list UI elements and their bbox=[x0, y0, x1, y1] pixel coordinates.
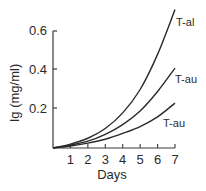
y-tick-label: 0.2 bbox=[29, 101, 47, 116]
x-tick-label: 6 bbox=[154, 152, 161, 167]
x-tick-label: 3 bbox=[102, 152, 109, 167]
series-label-t-al: T-al bbox=[176, 16, 194, 28]
y-tick-label: 0.4 bbox=[29, 62, 47, 77]
growth-chart: 0.20.40.6 Ig (mg/ml) 1234567 Days T-al T… bbox=[0, 0, 206, 191]
y-axis bbox=[53, 31, 57, 148]
x-tick-label: 5 bbox=[137, 152, 144, 167]
x-axis-title: Days bbox=[97, 167, 127, 182]
curve-t-au-2 bbox=[53, 103, 175, 148]
data-curves bbox=[53, 10, 175, 148]
y-tick-labels: 0.20.40.6 bbox=[29, 23, 47, 116]
y-tick-label: 0.6 bbox=[29, 23, 47, 38]
x-tick-labels: 1234567 bbox=[67, 152, 179, 167]
x-tick-label: 2 bbox=[84, 152, 91, 167]
series-label-t-au-lower: T-au bbox=[163, 117, 185, 129]
x-tick-label: 1 bbox=[67, 152, 74, 167]
series-label-t-au-upper: T-au bbox=[175, 73, 197, 85]
y-axis-title: Ig (mg/ml) bbox=[7, 64, 22, 123]
curve-t-al-0 bbox=[53, 10, 175, 148]
x-tick-label: 7 bbox=[171, 152, 178, 167]
x-tick-label: 4 bbox=[119, 152, 126, 167]
